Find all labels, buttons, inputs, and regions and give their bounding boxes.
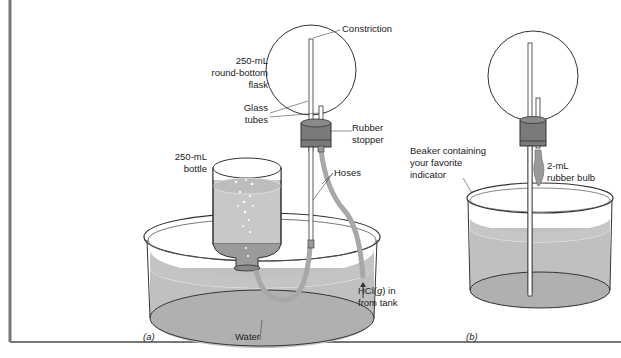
- label-hcl-prefix: HCl(: [358, 285, 377, 296]
- label-beaker-line2: your favorite: [410, 157, 462, 169]
- label-bulb-line1: 2-mL: [547, 160, 569, 172]
- label-hcl-suffix: ) in: [382, 285, 395, 296]
- label-tubes-line1: Glass: [244, 102, 268, 114]
- label-water: Water: [235, 331, 260, 343]
- panel-b-apparatus: [463, 31, 613, 308]
- label-stopper-line1: Rubber: [352, 122, 383, 134]
- label-tubes-line2: tubes: [245, 114, 268, 126]
- label-constriction: Constriction: [342, 23, 392, 35]
- diagram-figure: Constriction 250-mL round-bottom flask G…: [0, 0, 621, 358]
- label-hoses: Hoses: [334, 167, 361, 179]
- label-bulb-line2: rubber bulb: [547, 172, 595, 184]
- label-bottle-line2: bottle: [184, 163, 207, 175]
- label-hcl-line1: HCl(g) in: [358, 285, 396, 297]
- label-flask-line3: flask: [248, 79, 268, 91]
- apparatus-drawing: [0, 0, 621, 358]
- label-hcl-line2: from tank: [358, 297, 398, 309]
- label-flask-line1: 250-mL: [236, 55, 268, 67]
- label-beaker-line3: indicator: [410, 169, 446, 181]
- label-bottle-line1: 250-mL: [175, 151, 207, 163]
- label-flask-line2: round-bottom: [211, 67, 268, 79]
- caption-panel-a: (a): [143, 331, 155, 343]
- label-beaker-line1: Beaker containing: [410, 145, 486, 157]
- caption-panel-b: (b): [466, 331, 478, 343]
- label-stopper-line2: stopper: [352, 134, 384, 146]
